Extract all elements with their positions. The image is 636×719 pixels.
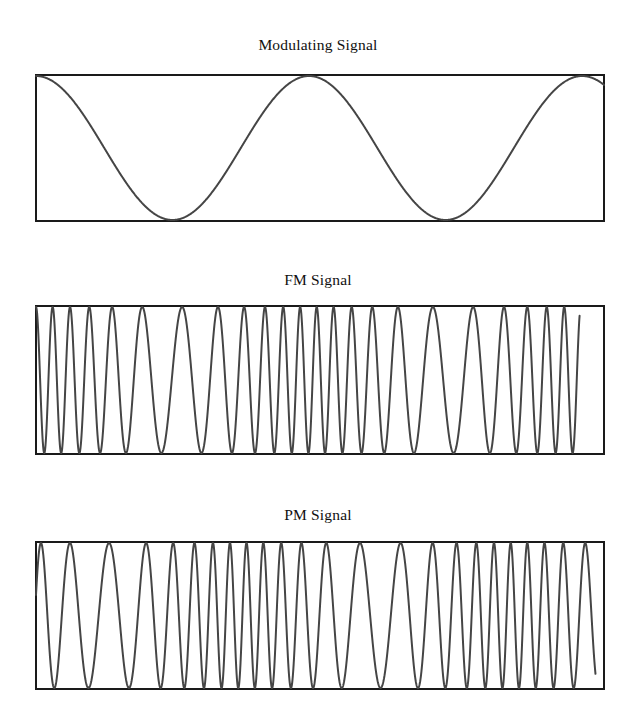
plot-modulating-signal xyxy=(35,74,605,222)
panel-title-fm: FM Signal xyxy=(0,271,636,289)
modulation-figure: Modulating Signal FM Signal PM Signal xyxy=(0,0,636,719)
plot-fm-signal xyxy=(35,305,605,455)
plot-pm-signal xyxy=(35,541,605,690)
panel-title-modulating: Modulating Signal xyxy=(0,36,636,54)
plot-frame-border xyxy=(36,75,604,221)
panel-title-pm: PM Signal xyxy=(0,506,636,524)
